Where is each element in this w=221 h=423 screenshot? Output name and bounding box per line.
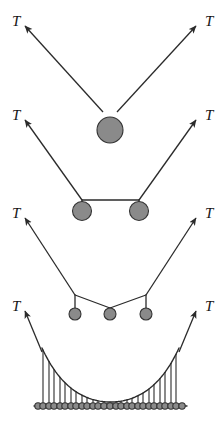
mass-circle bbox=[140, 308, 152, 320]
mass-circle bbox=[40, 403, 46, 409]
tension-arrow-left bbox=[25, 26, 103, 112]
single-mass-panel bbox=[25, 26, 196, 143]
mass-circle bbox=[173, 403, 179, 409]
mass-circle bbox=[101, 403, 107, 409]
mass-circle bbox=[95, 403, 101, 409]
tension-labels-layer: TTTTTTTT bbox=[12, 13, 215, 314]
tension-label-right: T bbox=[205, 107, 215, 123]
mass-circle bbox=[104, 308, 116, 320]
mass-circle bbox=[62, 403, 68, 409]
catenary-curve bbox=[42, 348, 179, 402]
chain-segment bbox=[75, 295, 110, 308]
mass-circle bbox=[73, 403, 79, 409]
tension-label-left: T bbox=[12, 205, 22, 221]
mass-circle bbox=[97, 117, 123, 143]
tension-label-left: T bbox=[12, 298, 22, 314]
mass-circle bbox=[118, 403, 124, 409]
mass-circle bbox=[130, 202, 149, 221]
tension-label-right: T bbox=[205, 205, 215, 221]
mass-circle bbox=[162, 403, 168, 409]
mass-circle bbox=[73, 202, 92, 221]
mass-circle bbox=[179, 403, 185, 409]
chain-segment bbox=[110, 295, 146, 308]
mass-circle bbox=[140, 403, 146, 409]
tension-label-right: T bbox=[205, 13, 215, 29]
mass-circle bbox=[51, 403, 57, 409]
mass-circle bbox=[84, 403, 90, 409]
tension-arrow-left bbox=[25, 311, 42, 352]
catenary-panel bbox=[25, 311, 196, 409]
tension-arrow-right bbox=[179, 311, 196, 352]
mass-circle bbox=[107, 403, 113, 409]
mass-circle bbox=[69, 308, 81, 320]
tension-arrow-right bbox=[139, 120, 196, 200]
tension-label-right: T bbox=[205, 298, 215, 314]
tension-arrow-right bbox=[117, 26, 196, 112]
three-mass-panel bbox=[25, 218, 196, 320]
mass-circle bbox=[129, 403, 135, 409]
mass-circle bbox=[151, 403, 157, 409]
tension-label-left: T bbox=[12, 13, 22, 29]
figure-canvas: TTTTTTTT bbox=[0, 0, 221, 423]
tension-arrow-left bbox=[25, 120, 82, 200]
tension-arrow-right bbox=[146, 218, 196, 295]
tension-arrow-left bbox=[25, 218, 75, 295]
physics-figure: TTTTTTTT bbox=[0, 0, 221, 423]
tension-label-left: T bbox=[12, 107, 22, 123]
